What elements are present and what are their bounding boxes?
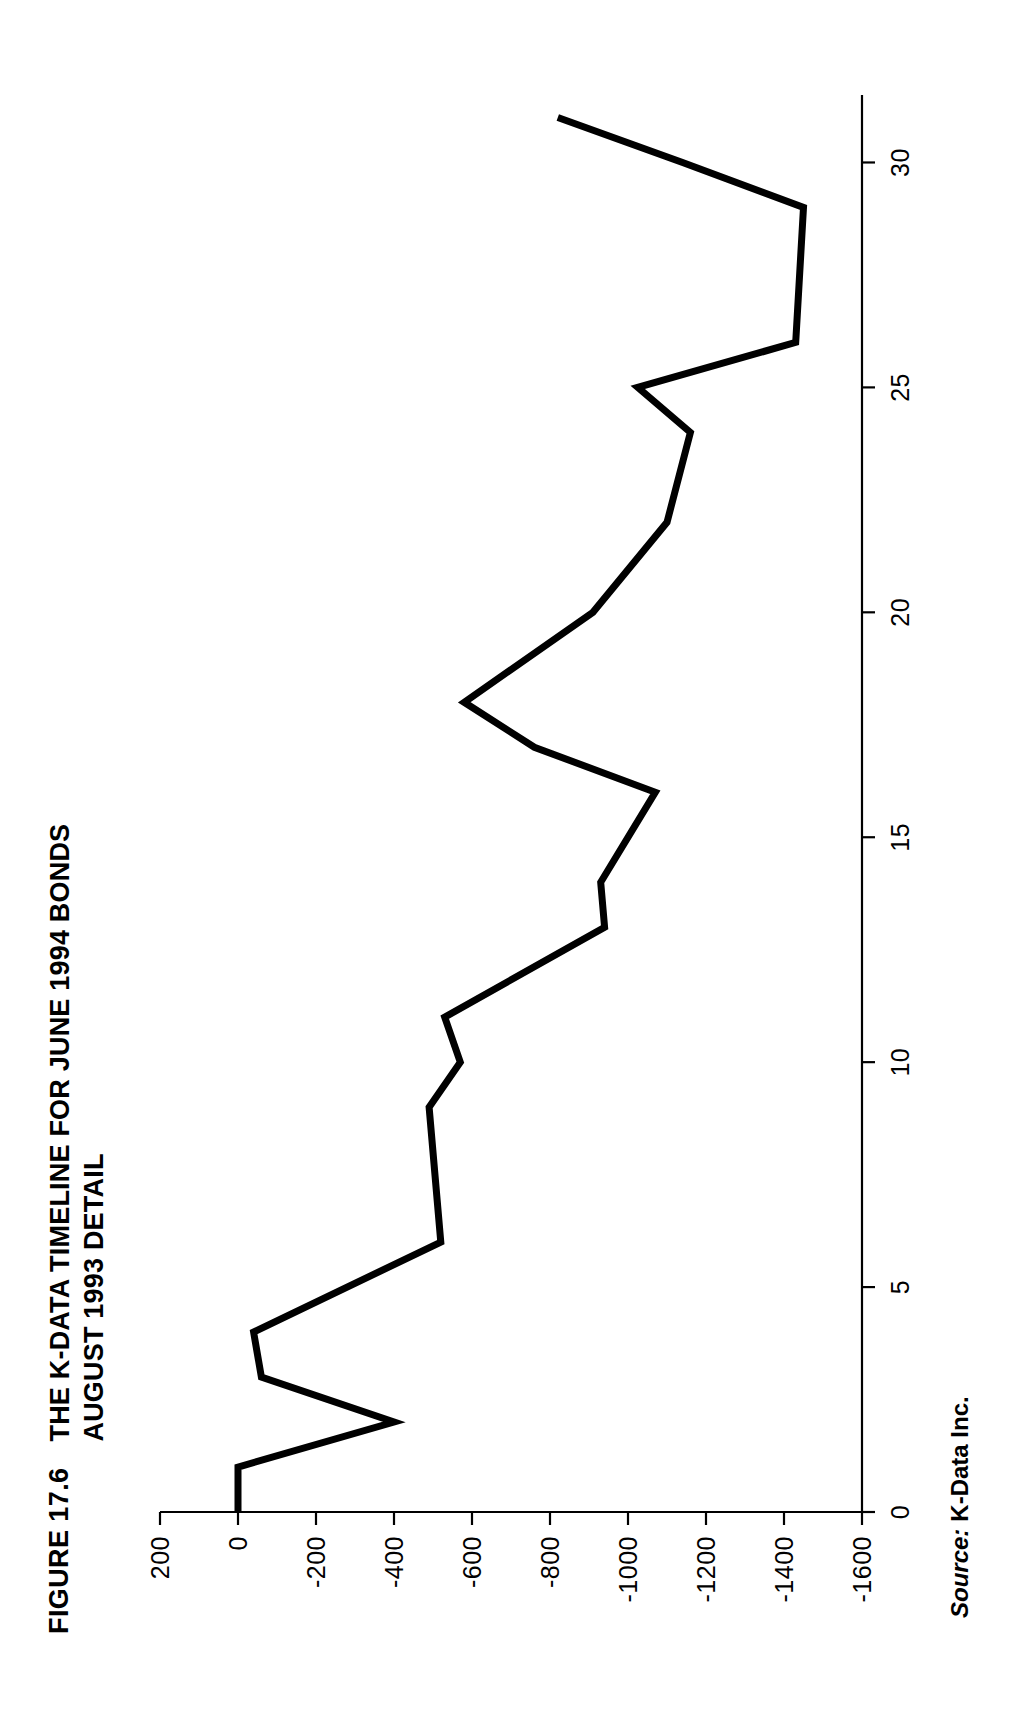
y-tick-label: 0 [224, 1536, 253, 1730]
x-tick-label: 30 [886, 148, 915, 177]
y-tick-label: -600 [458, 1536, 487, 1730]
axes-group [160, 95, 862, 1512]
chart-svg [0, 0, 1010, 1730]
source-value: K-Data Inc. [946, 1396, 973, 1521]
source-label: Source: [946, 1529, 973, 1618]
x-tick-label: 0 [886, 1505, 915, 1519]
x-tick-label: 10 [886, 1048, 915, 1077]
y-tick-label: -1600 [848, 1536, 877, 1730]
y-tick-label: -400 [380, 1536, 409, 1730]
ticks-group [160, 162, 875, 1525]
source-note: Source:K-Data Inc. [946, 1396, 974, 1618]
y-tick-label: 200 [146, 1536, 175, 1730]
y-tick-label: -1000 [614, 1536, 643, 1730]
x-tick-label: 25 [886, 373, 915, 402]
y-tick-label: -200 [302, 1536, 331, 1730]
x-tick-label: 5 [886, 1280, 915, 1294]
y-tick-label: -1400 [770, 1536, 799, 1730]
chart-plot-area: 051015202530 2000-200-400-600-800-1000-1… [0, 0, 1010, 1730]
y-tick-label: -800 [536, 1536, 565, 1730]
x-tick-label: 20 [886, 598, 915, 627]
y-tick-label: -1200 [692, 1536, 721, 1730]
figure-page: FIGURE 17.6 THE K-DATA TIMELINE FOR JUNE… [0, 0, 1010, 1730]
x-tick-label: 15 [886, 823, 915, 852]
data-series-line [238, 117, 804, 1512]
